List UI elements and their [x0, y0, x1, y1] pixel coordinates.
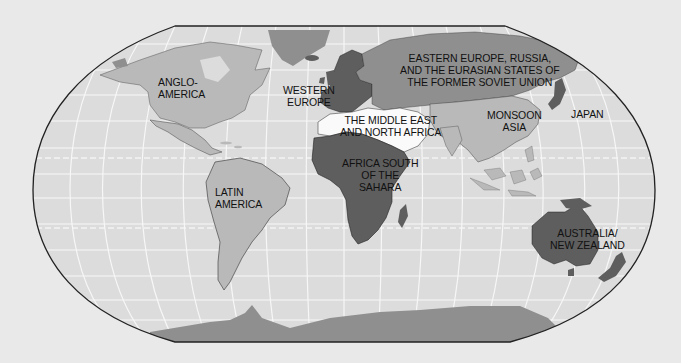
- world-regions-map: ANGLO- AMERICA WESTERN EUROPE EASTERN EU…: [0, 0, 681, 363]
- region-label-middle-east-north-africa: THE MIDDLE EAST AND NORTH AFRICA: [340, 114, 441, 138]
- map-canvas: [0, 0, 681, 363]
- region-label-anglo-america: ANGLO- AMERICA: [158, 76, 205, 100]
- region-label-western-europe: WESTERN EUROPE: [283, 84, 335, 108]
- region-label-eastern-europe-russia: EASTERN EUROPE, RUSSIA, AND THE EURASIAN…: [400, 52, 560, 88]
- region-label-australia-new-zealand: AUSTRALIA/ NEW ZEALAND: [550, 227, 625, 251]
- region-label-monsoon-asia: MONSOON ASIA: [487, 109, 542, 133]
- region-label-latin-america: LATIN AMERICA: [215, 186, 262, 210]
- region-label-japan: JAPAN: [571, 108, 604, 120]
- region-label-africa-south-of-sahara: AFRICA SOUTH OF THE SAHARA: [342, 157, 418, 193]
